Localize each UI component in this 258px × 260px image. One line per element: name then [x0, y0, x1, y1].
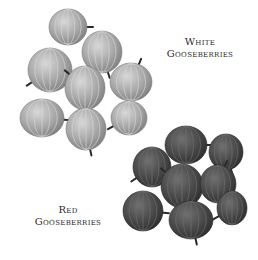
red-label-line1: Red — [18, 204, 118, 216]
white-label-line1: White — [150, 36, 250, 48]
white-gooseberries-cluster — [20, 9, 152, 155]
red-gooseberries-cluster — [123, 126, 247, 244]
white-label-line2: Gooseberries — [150, 48, 250, 60]
gooseberry — [165, 126, 213, 164]
gooseberry — [123, 191, 169, 231]
gooseberries-illustration: White Gooseberries Red Gooseberries — [0, 0, 258, 260]
gooseberry — [66, 108, 106, 155]
gooseberry — [20, 99, 70, 137]
gooseberry — [65, 66, 105, 110]
red-label-line2: Gooseberries — [18, 216, 118, 228]
gooseberry — [169, 201, 213, 244]
red-gooseberries-label: Red Gooseberries — [18, 204, 118, 228]
gooseberry — [108, 101, 147, 135]
white-gooseberries-label: White Gooseberries — [150, 36, 250, 60]
